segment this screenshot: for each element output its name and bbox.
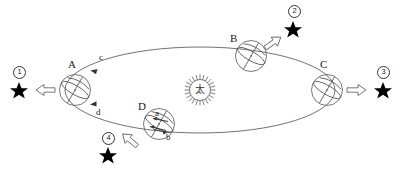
orbit-arrowhead-d (90, 101, 97, 106)
arrow-to-star-3 (347, 85, 366, 96)
earth-globe-c (311, 75, 342, 106)
orbit-arrow-c-label: c (99, 53, 103, 62)
earth-globe-a (59, 75, 90, 106)
orbit-arrowhead-c (91, 69, 98, 74)
globe-arrow-b-label: b (166, 133, 171, 142)
earth-label-c: C (320, 59, 327, 70)
globe-arrow-a-label: a (155, 109, 159, 118)
star-number-2: 2 (288, 5, 301, 18)
earth-globe-b (235, 41, 266, 72)
orbit-arrow-d-label: d (96, 108, 101, 117)
star-number-4: 4 (102, 132, 115, 145)
arrow-to-star-4 (119, 130, 141, 151)
sun-symbol: 太 (195, 85, 205, 95)
earth-label-a: A (68, 59, 76, 70)
star-2-group (262, 21, 302, 53)
arrow-to-star-1 (36, 85, 55, 96)
star-1-group (10, 82, 55, 99)
star-3-group (347, 82, 392, 99)
diagram-canvas: .orb{fill:none;stroke:#4d4d4d;stroke-wid… (0, 0, 402, 171)
earth-label-b: B (230, 33, 237, 44)
star-number-1: 1 (13, 66, 26, 79)
star-number-3: 3 (377, 66, 390, 79)
earth-label-d: D (138, 101, 146, 112)
